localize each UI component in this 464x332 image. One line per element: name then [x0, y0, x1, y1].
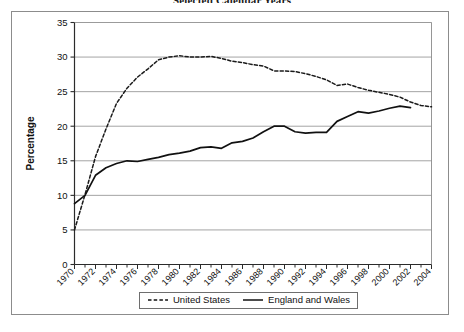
x-axis-tick-labels: 1970197219741976197819801982198419861988…	[55, 266, 433, 287]
x-tick-label-1998: 1998	[349, 266, 370, 287]
legend-swatch-solid	[242, 296, 264, 304]
gridlines	[75, 23, 432, 230]
axis-ticks	[71, 23, 432, 270]
y-tick-label-30: 30	[57, 51, 68, 62]
legend-item-united-states: United States	[147, 295, 230, 305]
x-tick-label-1982: 1982	[181, 266, 202, 287]
y-tick-label-25: 25	[57, 86, 68, 97]
x-tick-label-1978: 1978	[139, 266, 160, 287]
y-tick-label-10: 10	[57, 190, 68, 201]
x-tick-label-1994: 1994	[307, 266, 328, 287]
chart-legend: United States England and Wales	[139, 292, 358, 309]
legend-swatch-dashed	[147, 296, 169, 304]
x-tick-label-1992: 1992	[286, 266, 307, 287]
x-tick-label-1972: 1972	[76, 266, 97, 287]
y-axis-tick-labels: 05101520253035	[57, 17, 68, 270]
x-tick-label-1986: 1986	[223, 266, 244, 287]
legend-label-united-states: United States	[173, 295, 230, 305]
x-tick-label-1970: 1970	[55, 266, 76, 287]
axes	[75, 23, 432, 265]
x-tick-label-1984: 1984	[202, 266, 223, 287]
x-tick-label-1990: 1990	[265, 266, 286, 287]
y-tick-label-15: 15	[57, 155, 68, 166]
x-tick-label-1974: 1974	[97, 266, 118, 287]
x-tick-label-2004: 2004	[412, 266, 433, 287]
x-tick-label-1996: 1996	[328, 266, 349, 287]
x-tick-label-2002: 2002	[391, 266, 412, 287]
legend-label-england-and-wales: England and Wales	[268, 295, 350, 305]
x-tick-label-1980: 1980	[160, 266, 181, 287]
y-axis-title-text: Percentage	[25, 116, 36, 170]
legend-item-england-and-wales: England and Wales	[242, 295, 350, 305]
x-tick-label-2000: 2000	[370, 266, 391, 287]
y-tick-label-35: 35	[57, 17, 68, 28]
x-tick-label-1988: 1988	[244, 266, 265, 287]
series-line-united-states	[75, 56, 432, 230]
data-series-lines	[75, 56, 432, 230]
x-tick-label-1976: 1976	[118, 266, 139, 287]
line-chart-plot: 05101520253035 1970197219741976197819801…	[0, 0, 464, 332]
y-tick-label-20: 20	[57, 121, 68, 132]
series-line-england-and-wales	[75, 106, 411, 203]
y-tick-label-5: 5	[62, 224, 67, 235]
y-axis-title: Percentage	[25, 116, 36, 170]
chart-figure: Selected Calendar Years 05101520253035 1…	[0, 0, 464, 332]
